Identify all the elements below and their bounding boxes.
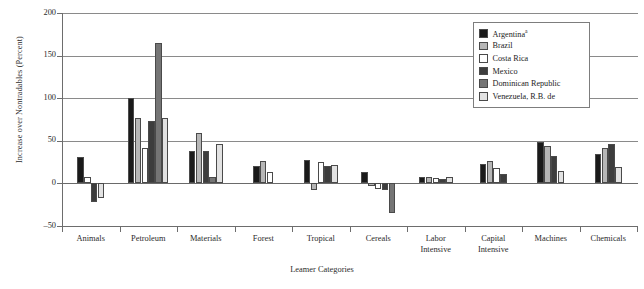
- x-category-label-line: Forest: [235, 234, 293, 245]
- legend-swatch-icon: [479, 42, 488, 51]
- bar: [77, 157, 83, 183]
- bar: [142, 148, 148, 184]
- legend-swatch-icon: [479, 67, 488, 76]
- x-category-label: Animals: [62, 234, 120, 245]
- legend-swatch-icon: [479, 54, 488, 63]
- legend: ArgentinaaBrazilCosta RicaMexicoDominica…: [473, 22, 590, 108]
- legend-item-label: Brazil: [493, 41, 513, 50]
- x-category-label: LaborIntensive: [407, 234, 465, 255]
- bar: [148, 121, 154, 183]
- bar: [500, 174, 506, 183]
- bar: [426, 177, 432, 183]
- bar: [558, 171, 564, 183]
- legend-item[interactable]: Argentinaa: [479, 27, 584, 40]
- bar: [544, 146, 550, 183]
- bar: [318, 162, 324, 183]
- x-category-label: Forest: [235, 234, 293, 245]
- x-category-label-line: Materials: [177, 234, 235, 245]
- bar: [135, 118, 141, 184]
- x-tick: [580, 226, 581, 232]
- bar: [615, 167, 621, 183]
- legend-item-label: Argentinaa: [493, 28, 528, 39]
- y-tick-label: 50: [18, 135, 56, 144]
- bar: [389, 183, 395, 213]
- x-category-label: CapitalIntensive: [465, 234, 523, 255]
- bar-group: [350, 13, 408, 226]
- x-tick: [522, 226, 523, 232]
- x-category-label-line: Capital: [465, 234, 523, 245]
- legend-item[interactable]: Dominican Republic: [479, 77, 584, 90]
- y-tick-label: 100: [18, 93, 56, 102]
- bar-group: [62, 13, 120, 226]
- x-category-label-line: Intensive: [465, 245, 523, 256]
- x-category-label: Petroleum: [120, 234, 178, 245]
- bar: [98, 183, 104, 197]
- bar: [382, 183, 388, 190]
- bar: [375, 183, 381, 188]
- legend-swatch-icon: [479, 92, 488, 101]
- bar: [608, 144, 614, 183]
- bar-group: [235, 13, 293, 226]
- bar: [162, 118, 168, 184]
- bar: [331, 165, 337, 184]
- y-tick-label: –50: [18, 221, 56, 230]
- x-category-label: Cereals: [350, 234, 408, 245]
- legend-item-label: Costa Rica: [493, 54, 529, 63]
- bar: [487, 161, 493, 183]
- bar: [595, 154, 601, 184]
- x-category-label-line: Tropical: [292, 234, 350, 245]
- bar: [324, 166, 330, 184]
- x-tick: [177, 226, 178, 232]
- bar: [368, 183, 374, 186]
- bar: [433, 178, 439, 183]
- x-category-label-line: Machines: [522, 234, 580, 245]
- bar: [189, 151, 195, 183]
- legend-item[interactable]: Venezuela, R.B. de: [479, 90, 584, 103]
- bar: [267, 172, 273, 183]
- bar: [311, 183, 317, 190]
- bar: [361, 172, 367, 183]
- legend-item[interactable]: Costa Rica: [479, 52, 584, 65]
- legend-item[interactable]: Mexico: [479, 65, 584, 78]
- bar: [551, 156, 557, 183]
- legend-item-label: Dominican Republic: [493, 79, 561, 88]
- bar: [260, 161, 266, 183]
- x-axis-title: Leamer Categories: [0, 265, 644, 274]
- bar: [602, 148, 608, 184]
- x-tick: [235, 226, 236, 232]
- bar: [439, 179, 445, 183]
- x-tick: [637, 226, 638, 232]
- bar: [203, 151, 209, 183]
- bar: [128, 98, 134, 183]
- bar: [419, 177, 425, 184]
- x-tick: [465, 226, 466, 232]
- x-category-label-line: Labor: [407, 234, 465, 245]
- x-tick: [407, 226, 408, 232]
- bar: [493, 168, 499, 183]
- x-category-label-line: Petroleum: [120, 234, 178, 245]
- y-tick-label: 150: [18, 50, 56, 59]
- legend-item-label: Venezuela, R.B. de: [493, 92, 556, 101]
- legend-footnote-marker: a: [525, 28, 527, 34]
- y-axis-tick-labels: –50050100150200: [12, 13, 56, 226]
- x-category-label-line: Animals: [62, 234, 120, 245]
- bar: [84, 177, 90, 184]
- bar: [155, 43, 161, 184]
- bar: [304, 160, 310, 183]
- x-tick: [62, 226, 63, 232]
- bar: [91, 183, 97, 202]
- legend-item-label: Mexico: [493, 67, 518, 76]
- y-tick-label: 200: [18, 8, 56, 17]
- bar-group: [407, 13, 465, 226]
- x-tick: [120, 226, 121, 232]
- legend-item[interactable]: Brazil: [479, 40, 584, 53]
- y-tick-label: 0: [18, 178, 56, 187]
- x-category-label: Tropical: [292, 234, 350, 245]
- bar: [196, 133, 202, 183]
- bar: [480, 164, 486, 184]
- bar: [537, 142, 543, 184]
- bar-group: [120, 13, 178, 226]
- x-category-label-line: Intensive: [407, 245, 465, 256]
- bar-group: [177, 13, 235, 226]
- x-tick: [292, 226, 293, 232]
